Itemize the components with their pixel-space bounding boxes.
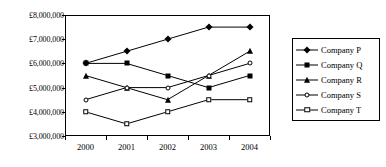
x-axis-tick [147, 136, 148, 140]
data-point-marker [206, 85, 211, 90]
data-point-marker [165, 96, 171, 102]
legend-item[interactable]: Company R [296, 72, 375, 87]
data-point-marker [165, 73, 170, 78]
data-point-marker [247, 61, 252, 66]
legend-item-label: Company Q [321, 60, 362, 70]
legend: Company PCompany QCompany RCompany SComp… [292, 38, 380, 121]
data-point-marker [247, 97, 253, 103]
data-point-marker [83, 97, 88, 102]
legend-marker-icon [296, 89, 318, 101]
legend-item-label: Company R [321, 75, 362, 85]
data-point-marker [83, 61, 88, 66]
x-axis-tick-label: 2001 [118, 142, 135, 152]
data-point-marker [165, 85, 170, 90]
x-axis-tick [65, 136, 66, 140]
data-point-marker [83, 72, 89, 78]
x-axis-tick [229, 136, 230, 140]
data-point-marker [206, 73, 211, 78]
data-point-marker [124, 121, 130, 127]
data-point-marker [165, 109, 171, 115]
data-point-marker [305, 62, 310, 67]
series-line [86, 27, 250, 63]
series-line [86, 63, 250, 99]
legend-marker-icon [296, 44, 318, 56]
legend-marker-icon [296, 104, 318, 116]
data-point-marker [206, 97, 212, 103]
x-axis-tick-label: 2003 [200, 142, 217, 152]
data-point-marker [247, 73, 252, 78]
y-axis-tick [62, 39, 65, 40]
y-axis-tick [62, 112, 65, 113]
legend-marker-icon [296, 74, 318, 86]
data-point-marker [124, 61, 129, 66]
x-axis-tick-label: 2004 [241, 142, 258, 152]
line-chart: £8,000,000£7,000,000£6,000,000£5,000,000… [0, 0, 386, 167]
legend-item[interactable]: Company Q [296, 57, 375, 72]
legend-item-label: Company T [321, 105, 361, 115]
x-axis-tick-label: 2000 [77, 142, 94, 152]
legend-item[interactable]: Company P [296, 42, 375, 57]
legend-marker-icon [296, 59, 318, 71]
x-axis-tick [270, 136, 271, 140]
legend-item-label: Company P [321, 45, 361, 55]
legend-item[interactable]: Company T [296, 102, 375, 117]
data-point-marker [305, 92, 310, 97]
data-point-marker [304, 107, 310, 113]
legend-item-label: Company S [321, 90, 361, 100]
data-point-marker [303, 46, 310, 53]
x-axis-tick [106, 136, 107, 140]
y-axis-tick [62, 88, 65, 89]
x-axis-tick-label: 2002 [159, 142, 176, 152]
y-axis-tick [62, 63, 65, 64]
data-point-marker [304, 76, 310, 82]
data-point-marker [83, 109, 89, 115]
x-axis-tick [188, 136, 189, 140]
y-axis-tick [62, 15, 65, 16]
legend-item[interactable]: Company S [296, 87, 375, 102]
data-point-marker [247, 48, 253, 54]
data-point-marker [124, 85, 129, 90]
